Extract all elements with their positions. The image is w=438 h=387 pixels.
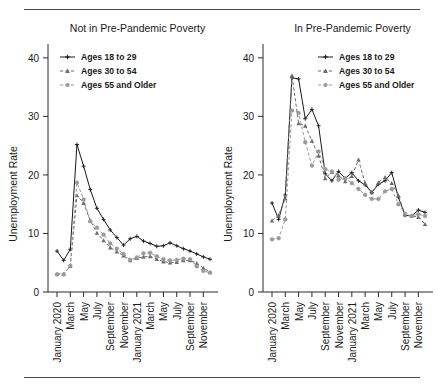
data-point-circle: [390, 187, 394, 191]
data-point-circle: [363, 193, 367, 197]
top-horizontal-rule: [24, 9, 420, 10]
data-point-circle: [175, 258, 179, 262]
legend-marker-circle: [65, 83, 69, 87]
legend-marker-circle: [323, 83, 327, 87]
data-point-circle: [310, 164, 314, 168]
data-point-circle: [377, 197, 381, 201]
data-point-triangle: [356, 158, 360, 162]
bottom-horizontal-rule: [24, 377, 420, 378]
data-point-circle: [323, 167, 327, 171]
x-tick-label: November: [119, 301, 130, 348]
data-point-circle: [297, 111, 301, 115]
data-point-circle: [142, 251, 146, 255]
y-tick-label: 0: [33, 287, 39, 298]
panel-left: Not in Pre-Pandemic Poverty010203040Unem…: [7, 22, 218, 363]
panel-title-left: Not in Pre-Pandemic Poverty: [70, 22, 206, 34]
y-tick-label: 20: [243, 170, 255, 181]
x-tick-label: September: [105, 301, 116, 351]
data-point-circle: [68, 264, 72, 268]
x-tick-label: May: [373, 302, 384, 321]
data-point-circle: [396, 202, 400, 206]
data-point-circle: [75, 181, 79, 185]
legend-label: Ages 55 and Older: [339, 80, 415, 90]
data-point-circle: [403, 212, 407, 216]
data-point-circle: [410, 214, 414, 218]
y-tick-label: 30: [28, 111, 40, 122]
data-point-circle: [357, 187, 361, 191]
data-point-circle: [115, 247, 119, 251]
x-tick-label: July: [172, 302, 183, 320]
x-tick-label: November: [334, 301, 345, 348]
x-tick-label: November: [198, 301, 209, 348]
data-point-circle: [370, 197, 374, 201]
data-point-circle: [383, 189, 387, 193]
y-tick-label: 20: [28, 170, 40, 181]
x-tick-label: January 2021: [347, 302, 358, 363]
x-tick-label: January 2021: [132, 302, 143, 363]
data-point-circle: [416, 212, 420, 216]
x-tick-label: January 2020: [267, 302, 278, 363]
data-point-triangle: [303, 124, 307, 128]
x-tick-label: May: [294, 302, 305, 321]
x-tick-label: September: [185, 301, 196, 351]
legend-label: Ages 18 to 29: [81, 52, 137, 62]
data-point-circle: [168, 258, 172, 262]
x-tick-label: July: [307, 302, 318, 320]
x-tick-label: November: [413, 301, 424, 348]
data-point-circle: [270, 237, 274, 241]
data-point-circle: [208, 271, 212, 275]
data-point-circle: [102, 233, 106, 237]
data-point-circle: [62, 273, 66, 277]
x-tick-label: May: [79, 302, 90, 321]
data-point-circle: [195, 264, 199, 268]
data-point-circle: [330, 170, 334, 174]
legend-label: Ages 30 to 54: [81, 66, 137, 76]
y-tick-label: 0: [248, 287, 254, 298]
series-line-ages-30-to-54: [272, 75, 425, 224]
y-tick-label: 40: [243, 53, 255, 64]
data-point-triangle: [396, 193, 400, 197]
data-point-circle: [290, 109, 294, 113]
panel-right: In Pre-Pandemic Poverty010203040Unemploy…: [222, 22, 433, 363]
x-tick-label: May: [158, 302, 169, 321]
data-point-circle: [95, 226, 99, 230]
data-point-circle: [303, 140, 307, 144]
data-point-triangle: [363, 181, 367, 185]
y-tick-label: 30: [243, 111, 255, 122]
series-line-ages-18-to-29: [57, 144, 210, 260]
data-point-triangle: [95, 231, 99, 235]
y-tick-label: 10: [243, 228, 255, 239]
data-point-circle: [135, 256, 139, 260]
series-line-ages-30-to-54: [57, 195, 210, 273]
legend-label: Ages 18 to 29: [339, 52, 395, 62]
data-point-circle: [350, 181, 354, 185]
legend-label: Ages 55 and Older: [81, 80, 157, 90]
y-axis-title-right: Unemployment Rate: [222, 146, 234, 242]
x-tick-label: July: [387, 302, 398, 320]
chart-canvas: Not in Pre-Pandemic Poverty010203040Unem…: [0, 0, 438, 387]
data-point-triangle: [290, 73, 294, 77]
figure-container: Not in Pre-Pandemic Poverty010203040Unem…: [0, 0, 438, 387]
data-point-circle: [337, 178, 341, 182]
data-point-circle: [423, 214, 427, 218]
data-point-circle: [162, 257, 166, 261]
data-point-triangle: [323, 176, 327, 180]
data-point-circle: [82, 198, 86, 202]
x-tick-label: March: [360, 302, 371, 330]
x-tick-label: January 2020: [52, 302, 63, 363]
y-tick-label: 10: [28, 228, 40, 239]
data-point-circle: [55, 273, 59, 277]
data-point-triangle: [383, 175, 387, 179]
y-tick-label: 40: [28, 53, 40, 64]
data-point-circle: [155, 254, 159, 258]
data-point-circle: [317, 150, 321, 154]
data-point-triangle: [390, 181, 394, 185]
data-point-circle: [122, 252, 126, 256]
x-tick-label: July: [92, 302, 103, 320]
x-tick-label: March: [65, 302, 76, 330]
data-point-circle: [181, 257, 185, 261]
data-point-circle: [128, 258, 132, 262]
panel-title-right: In Pre-Pandemic Poverty: [294, 22, 411, 34]
data-point-triangle: [101, 238, 105, 242]
x-tick-label: March: [280, 302, 291, 330]
